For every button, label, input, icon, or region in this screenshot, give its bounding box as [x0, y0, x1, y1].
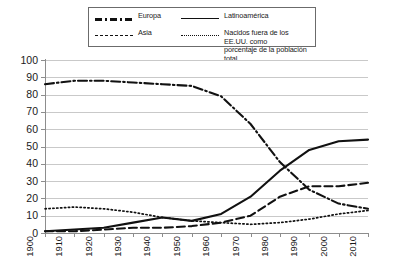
- x-tick-mark-2000: [339, 233, 340, 237]
- series-line-europa: [45, 81, 368, 209]
- x-tick-mark-1970: [251, 233, 252, 237]
- x-tick-mark-2010: [368, 233, 369, 237]
- x-tick-mark-1900: [45, 233, 46, 237]
- x-tick-mark-1980: [280, 233, 281, 237]
- x-tick-mark-1960: [221, 233, 222, 237]
- line-chart: Europa Latinoamérica Asia Nacidos fuera …: [0, 0, 395, 278]
- x-tick-mark-1930: [133, 233, 134, 237]
- series-line-nacidos: [45, 207, 368, 224]
- series-line-asia: [45, 183, 368, 231]
- x-tick-mark-1920: [104, 233, 105, 237]
- x-tick-mark-1990: [309, 233, 310, 237]
- x-tick-mark-1950: [192, 233, 193, 237]
- data-series-layer: [0, 0, 395, 278]
- x-tick-mark-1910: [74, 233, 75, 237]
- x-tick-mark-1940: [162, 233, 163, 237]
